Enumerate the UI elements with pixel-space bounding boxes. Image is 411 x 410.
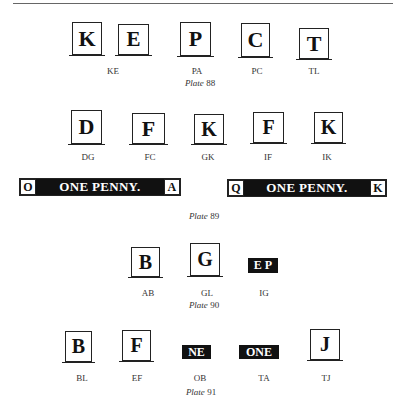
stamp-letter: K	[201, 118, 217, 141]
caption-ke: KE	[93, 66, 133, 76]
plate-label-91: Plate 91	[161, 387, 241, 397]
plate-label-89: Plate 89	[164, 211, 244, 221]
caption-pc: PC	[237, 66, 277, 76]
stamp-letter: J	[320, 333, 330, 356]
stamp-fc: F	[132, 113, 165, 144]
caption-ta: TA	[244, 373, 284, 383]
caption-ef: EF	[117, 373, 157, 383]
caption-ig: IG	[244, 288, 284, 298]
plate-label-88: Plate 88	[160, 78, 240, 88]
stamp-bl: B	[65, 331, 92, 362]
stamp-letter: G	[197, 248, 213, 271]
caption-if: IF	[248, 152, 288, 162]
caption-ik: IK	[307, 152, 347, 162]
stamp-letter: E P	[254, 258, 272, 273]
stamp-gl: G	[190, 243, 220, 276]
caption-fc: FC	[130, 152, 170, 162]
caption-bl: BL	[62, 373, 102, 383]
caption-gk: GK	[188, 152, 228, 162]
stamp-ob: NE	[182, 345, 211, 359]
stamp-letter: B	[139, 251, 152, 274]
banner-corner-right: K	[370, 180, 386, 196]
stamp-ik: K	[314, 112, 343, 143]
stamp-ke-e: E	[118, 24, 149, 55]
stamp-letter: T	[307, 31, 322, 57]
stamp-letter: NE	[188, 345, 205, 360]
caption-dg: DG	[68, 152, 108, 162]
stamp-tl: T	[299, 28, 329, 59]
stamp-letter: K	[321, 116, 337, 139]
stamp-letter: C	[248, 27, 264, 53]
stamp-ig: E P	[248, 258, 278, 273]
stamp-letter: F	[142, 116, 155, 142]
plate-label-90: Plate 90	[164, 300, 244, 310]
stamp-ta: ONE	[239, 345, 279, 359]
stamp-letter: B	[72, 335, 85, 358]
stamp-ke-k: K	[72, 22, 102, 55]
stamp-ab: B	[131, 247, 160, 277]
banner-corner-left: Q	[228, 180, 244, 196]
stamp-tj: J	[310, 329, 340, 360]
stamp-pa: P	[180, 22, 211, 56]
stamp-letter: ONE	[246, 345, 272, 360]
banner-text: ONE PENNY.	[36, 179, 164, 195]
caption-tl: TL	[294, 66, 334, 76]
caption-pa: PA	[177, 66, 217, 76]
stamp-ef: F	[122, 330, 151, 361]
stamp-dg: D	[71, 110, 102, 144]
caption-tj: TJ	[306, 373, 346, 383]
banner-corner-right: A	[164, 179, 180, 195]
stamp-letter: F	[262, 116, 274, 139]
caption-ab: AB	[128, 288, 168, 298]
caption-gl: GL	[187, 288, 227, 298]
stamp-letter: D	[79, 114, 95, 140]
banner-text: ONE PENNY.	[244, 180, 370, 196]
stamp-letter: E	[126, 27, 140, 52]
stamp-pc: C	[241, 23, 270, 57]
stamp-letter: F	[130, 334, 142, 357]
one-penny-banner-oa: O ONE PENNY. A	[19, 178, 181, 196]
one-penny-banner-qk: Q ONE PENNY. K	[227, 179, 387, 197]
top-rule	[13, 3, 393, 4]
stamp-if: F	[253, 112, 284, 143]
stamp-letter: P	[189, 26, 202, 52]
banner-corner-left: O	[20, 179, 36, 195]
caption-ob: OB	[180, 373, 220, 383]
stamp-letter: K	[78, 26, 95, 52]
stamp-gk: K	[194, 114, 224, 144]
